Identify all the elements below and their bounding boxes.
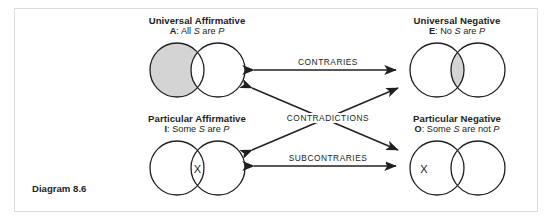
venn-O-circle-S xyxy=(410,141,464,195)
caption-prop-var-A-3: P xyxy=(218,26,224,36)
caption-title-I: Particular Affirmative xyxy=(122,113,272,124)
caption-letter-O: O xyxy=(415,124,422,134)
caption-title-E: Universal Negative xyxy=(382,15,532,26)
diagram-figure: X X Universal Affirmative A: All S are P… xyxy=(0,0,553,223)
caption-prop-word-O-0: Some xyxy=(427,124,454,134)
venn-O-x-mark: X xyxy=(420,163,428,175)
venn-diagram-E xyxy=(410,43,505,97)
caption-universal-affirmative: Universal Affirmative A: All S are P xyxy=(122,15,272,37)
venn-I-x-mark: X xyxy=(194,163,202,175)
caption-prop-word-I-0: Some xyxy=(172,124,199,134)
caption-prop-word-A-0: All xyxy=(181,26,194,36)
relation-label-contradictions: CONTRADICTIONS xyxy=(262,113,394,123)
caption-proposition-I: I: Some S are P xyxy=(122,124,272,135)
caption-particular-affirmative: Particular Affirmative I: Some S are P xyxy=(122,113,272,135)
caption-proposition-A: A: All S are P xyxy=(122,26,272,37)
caption-prop-word-E-0: No xyxy=(440,26,454,36)
caption-title-O: Particular Negative xyxy=(378,113,536,124)
caption-prop-var-I-3: P xyxy=(223,124,229,134)
caption-prop-var-E-3: P xyxy=(479,26,485,36)
relation-label-contraries: CONTRARIES xyxy=(275,57,381,67)
caption-title-A: Universal Affirmative xyxy=(122,15,272,26)
relation-label-subcontraries: SUBCONTRARIES xyxy=(270,153,386,163)
caption-prop-word-O-2: are not xyxy=(460,124,494,134)
venn-diagram-O: X xyxy=(410,141,505,195)
diagram-caption-number: Diagram 8.6 xyxy=(32,183,86,194)
caption-particular-negative: Particular Negative O: Some S are not P xyxy=(378,113,536,135)
caption-prop-word-A-2: are xyxy=(200,26,218,36)
caption-proposition-E: E: No S are P xyxy=(382,26,532,37)
caption-prop-var-O-3: P xyxy=(493,124,499,134)
venn-diagram-A xyxy=(140,35,250,110)
caption-universal-negative: Universal Negative E: No S are P xyxy=(382,15,532,37)
venn-O-circle-P xyxy=(451,141,505,195)
venn-diagram-I: X xyxy=(150,141,245,195)
venn-A-shaded-left-only xyxy=(140,35,250,110)
caption-prop-word-E-2: are xyxy=(461,26,479,36)
caption-proposition-O: O: Some S are not P xyxy=(378,124,536,135)
caption-prop-word-I-2: are xyxy=(205,124,223,134)
